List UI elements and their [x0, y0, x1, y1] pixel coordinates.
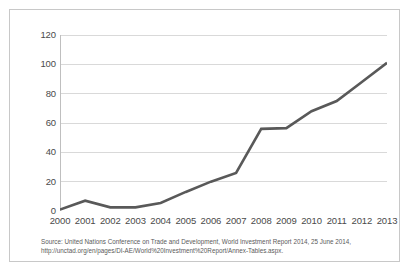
gridlines: [60, 35, 387, 211]
x-tick-label: 2013: [377, 215, 398, 227]
x-tick-label: 2003: [125, 215, 146, 227]
y-tick-label: 60: [14, 118, 56, 128]
x-tick-label: 2002: [100, 215, 121, 227]
x-tick-label: 2001: [75, 215, 96, 227]
source-note: Source: United Nations Conference on Tra…: [41, 237, 391, 256]
x-tick-label: 2006: [201, 215, 222, 227]
x-tick-label: 2009: [276, 215, 297, 227]
x-axis: 2000200120022003200420052006200720082009…: [60, 215, 387, 229]
x-tick-label: 2004: [150, 215, 171, 227]
x-tick-label: 2008: [251, 215, 272, 227]
y-tick-label: 40: [14, 147, 56, 157]
y-tick-label: 20: [14, 177, 56, 187]
y-tick-label: 80: [14, 89, 56, 99]
chart-figure: 020406080100120 200020012002200320042005…: [0, 0, 410, 279]
data-series-line: [60, 63, 387, 210]
y-axis: 020406080100120: [10, 35, 56, 211]
chart-frame: 020406080100120 200020012002200320042005…: [9, 9, 400, 262]
x-tick-label: 2011: [327, 215, 347, 227]
x-tick-label: 2007: [226, 215, 247, 227]
y-tick-label: 100: [14, 59, 56, 69]
x-tick-label: 2000: [50, 215, 71, 227]
x-tick-label: 2010: [301, 215, 322, 227]
x-tick-label: 2012: [351, 215, 372, 227]
line-chart-svg: [60, 35, 387, 211]
plot-area: [60, 35, 387, 211]
x-tick-label: 2005: [175, 215, 196, 227]
y-tick-label: 120: [14, 30, 56, 40]
